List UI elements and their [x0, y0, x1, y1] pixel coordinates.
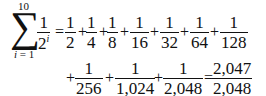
result-fraction: 2,0472,048 — [212, 60, 252, 96]
plus-sign: + — [150, 24, 159, 40]
fraction: 12,048 — [163, 60, 203, 96]
lower-limit: i = 1 — [14, 48, 34, 60]
plus-sign: + — [180, 24, 189, 40]
plus-sign: + — [154, 70, 163, 86]
fraction: 12 — [65, 14, 76, 51]
plus-sign: + — [120, 24, 129, 40]
fraction: 1256 — [75, 60, 103, 96]
plus-sign: + — [210, 24, 219, 40]
equals-sign: = — [55, 24, 64, 40]
fraction: 164 — [190, 14, 209, 51]
fraction: 14 — [86, 14, 97, 51]
sigma-symbol: ∑ — [10, 6, 40, 48]
plus-sign: + — [66, 70, 75, 86]
fraction: 1128 — [220, 14, 248, 51]
sum-term: 1 2i — [37, 14, 50, 52]
fraction: 11,024 — [115, 60, 155, 96]
plus-sign: + — [105, 70, 114, 86]
fraction: 116 — [130, 14, 149, 51]
fraction: 132 — [160, 14, 179, 51]
fraction: 18 — [107, 14, 118, 51]
